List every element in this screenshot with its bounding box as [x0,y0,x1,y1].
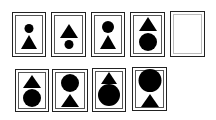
answer-option-1[interactable] [15,69,49,112]
triangle-icon [60,24,78,38]
sequence-panel-4 [130,12,165,57]
circle-icon [138,69,161,92]
triangle-icon [21,35,37,49]
circle-icon [139,33,157,51]
circle-icon [25,24,34,33]
panel-inner-border [173,14,202,54]
answer-option-2[interactable] [52,69,88,112]
triangle-icon [23,75,41,88]
sequence-panel-3 [91,12,125,57]
answer-option-4[interactable] [132,67,167,111]
circle-icon [23,89,41,107]
triangle-icon [101,72,117,84]
sequence-panel-2 [51,12,86,57]
sequence-panel-blank[interactable] [170,11,205,57]
triangle-icon [139,17,157,31]
circle-icon [64,40,73,49]
triangle-icon [100,35,116,49]
triangle-icon [61,94,79,107]
sequence-panel-1 [12,12,46,57]
circle-icon [61,74,79,92]
circle-icon [98,84,120,106]
triangle-icon [141,94,159,107]
circle-icon [102,21,114,33]
answer-option-3[interactable] [92,68,126,112]
